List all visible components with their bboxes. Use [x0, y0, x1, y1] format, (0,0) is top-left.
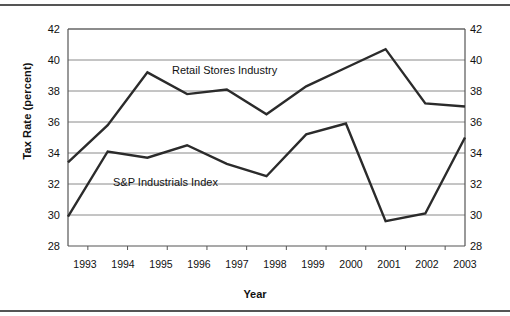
plot-area — [0, 0, 510, 316]
series-label-snp: S&P Industrials Index — [113, 176, 218, 188]
axis-frame — [68, 29, 465, 246]
tax-rate-line-chart: Tax Rate (percent) Year 42 40 38 36 34 3… — [0, 0, 510, 316]
series-label-retail: Retail Stores Industry — [172, 64, 277, 76]
x-tick-marks — [88, 246, 445, 250]
